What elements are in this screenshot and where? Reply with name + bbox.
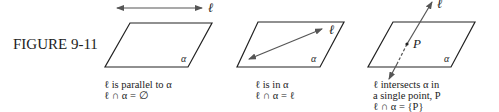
caption-line: ℓ ∩ α = {P} (373, 101, 441, 112)
point-p (405, 42, 408, 45)
plane-alpha (105, 23, 212, 67)
caption-line: ℓ ∩ α = ∅ (104, 90, 172, 101)
line-l-below (389, 64, 397, 79)
point-label: P (413, 36, 421, 52)
caption-line: ℓ ∩ α = ℓ (255, 90, 295, 101)
plane-label: α (444, 53, 449, 64)
line-label: ℓ (329, 22, 334, 38)
plane-label: α (181, 53, 186, 64)
caption-panel-1: ℓ is parallel to α ℓ ∩ α = ∅ (104, 79, 172, 101)
line-l-hidden (397, 44, 407, 64)
panel-intersects (368, 2, 475, 79)
plane-label: α (311, 53, 316, 64)
plane-alpha (237, 22, 344, 67)
line-label: ℓ (208, 0, 213, 16)
caption-panel-2: ℓ is in α ℓ ∩ α = ℓ (255, 79, 295, 101)
caption-line: ℓ is in α (255, 79, 295, 90)
panel-parallel (105, 8, 212, 67)
caption-line: ℓ is parallel to α (104, 79, 172, 90)
caption-panel-3: ℓ intersects α in a single point, P ℓ ∩ … (373, 79, 441, 112)
plane-alpha (368, 22, 475, 67)
line-label: ℓ (437, 0, 442, 12)
caption-line: a single point, P (373, 90, 441, 101)
panel-in-plane (237, 22, 344, 67)
caption-line: ℓ intersects α in (373, 79, 441, 90)
